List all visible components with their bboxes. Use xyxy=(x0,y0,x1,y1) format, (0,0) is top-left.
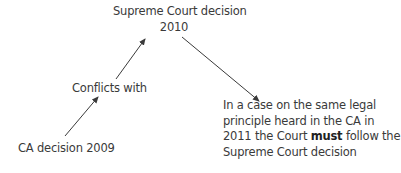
arrow-ca-to-conflicts xyxy=(65,97,98,136)
conflicts-with-node: Conflicts with xyxy=(72,81,147,97)
must-emphasis: must xyxy=(311,129,343,143)
supreme-court-year: 2010 xyxy=(113,20,235,36)
result-line-4: Supreme Court decision xyxy=(223,145,400,161)
result-line-2: principle heard in the CA in xyxy=(223,114,400,130)
result-line-3-pre: 2011 the Court xyxy=(223,129,311,143)
supreme-court-node: Supreme Court decision 2010 xyxy=(113,4,235,35)
arrow-conflicts-to-supreme xyxy=(116,39,145,79)
result-line-1: In a case on the same legal xyxy=(223,98,400,114)
ca-decision-node: CA decision 2009 xyxy=(18,141,115,157)
arrow-supreme-to-result xyxy=(182,37,259,101)
result-node: In a case on the same legal principle he… xyxy=(223,98,400,160)
supreme-court-label: Supreme Court decision xyxy=(113,4,235,20)
result-line-3-post: follow the xyxy=(342,129,400,143)
result-line-3: 2011 the Court must follow the xyxy=(223,129,400,145)
